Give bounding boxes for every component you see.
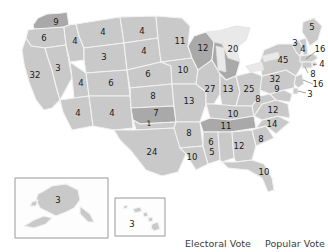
hawaii-inset: 3 (115, 198, 165, 236)
label-KY: 10 (228, 109, 239, 119)
label-MS: 6 (208, 137, 213, 147)
label-NC: 14 (267, 119, 278, 129)
label-SD: 4 (141, 46, 146, 56)
label-CA: 32 (30, 70, 41, 80)
label-AZ: 4 (75, 108, 80, 118)
label-AR: 8 (186, 128, 191, 138)
label-IA: 10 (178, 65, 189, 75)
electoral-vote-label: Electoral Vote (185, 238, 251, 249)
label-DE: 3 (307, 89, 312, 99)
label-RI: 4 (319, 59, 324, 69)
label-CO: 6 (108, 78, 113, 88)
label-MO: 13 (184, 96, 195, 106)
label-AK: 3 (55, 195, 60, 205)
label-NY: 45 (278, 55, 289, 65)
label-AL: 5 (209, 147, 214, 157)
label-NM: 4 (109, 108, 114, 118)
label-FL: 10 (259, 167, 270, 177)
state-NJ[interactable] (294, 74, 304, 88)
label-NE: 6 (145, 69, 150, 79)
lake-erie-water (246, 62, 264, 72)
label-CT: 8 (310, 69, 315, 79)
label-VT: 3 (292, 38, 297, 48)
electoral-map-container: 9 6 32 3 4 4 3 4 4 6 4 4 4 6 8 7 1 24 11… (0, 0, 328, 252)
label-PA: 32 (270, 74, 281, 84)
label-IN: 13 (223, 84, 234, 94)
label-WI: 12 (198, 43, 209, 53)
label-ME: 5 (309, 22, 314, 32)
label-NV: 3 (55, 63, 60, 73)
leader-line-NJ (303, 80, 313, 84)
state-AL[interactable] (218, 132, 234, 162)
state-RI[interactable] (312, 62, 316, 66)
label-HI: 3 (129, 219, 134, 229)
label-NH: 4 (300, 44, 305, 54)
label-TN: 11 (221, 121, 232, 131)
label-LA: 10 (187, 152, 198, 162)
label-OK-split: 1 (147, 119, 152, 128)
state-MA[interactable] (300, 54, 318, 62)
us-electoral-map: 9 6 32 3 4 4 3 4 4 6 4 4 4 6 8 7 1 24 11… (0, 0, 328, 252)
leader-line-DE (298, 91, 306, 93)
label-OR: 6 (41, 33, 46, 43)
mainland-states (22, 12, 322, 192)
label-SC: 8 (258, 134, 263, 144)
label-WY: 3 (101, 52, 106, 62)
label-OK: 7 (153, 108, 158, 118)
alaska-inset: 3 (15, 178, 108, 238)
label-MA: 16 (315, 44, 326, 54)
label-WA: 9 (53, 17, 58, 27)
label-MD: 9 (274, 84, 279, 94)
label-UT: 4 (78, 78, 83, 88)
label-GA: 12 (234, 141, 245, 151)
state-CT[interactable] (302, 62, 312, 68)
label-VA: 12 (268, 105, 279, 115)
label-OH: 25 (244, 84, 255, 94)
label-ID: 4 (72, 36, 77, 46)
label-NJ: 16 (313, 79, 324, 89)
label-ND: 4 (139, 26, 144, 36)
label-MI: 20 (228, 44, 239, 54)
label-WV: 8 (255, 94, 260, 104)
popular-vote-label: Popular Vote (265, 238, 325, 249)
label-TX: 24 (147, 147, 158, 157)
state-DE[interactable] (293, 88, 298, 94)
label-IL: 27 (205, 84, 216, 94)
label-KS: 8 (150, 91, 155, 101)
label-MT: 4 (100, 27, 105, 37)
state-WA[interactable] (33, 12, 69, 29)
label-MN: 11 (175, 36, 186, 46)
